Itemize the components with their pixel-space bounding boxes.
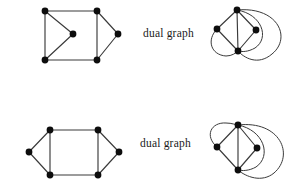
dual-edge-vertical — [237, 10, 238, 51]
vertex-node — [70, 31, 77, 38]
dual-edge-left-bottom — [217, 147, 238, 170]
edge-interior-lower — [45, 34, 73, 60]
vertex-node — [235, 48, 242, 55]
dual-graph-label-bottom: dual graph — [140, 137, 191, 150]
vertex-node — [253, 27, 260, 34]
vertex-node — [95, 127, 102, 134]
dual-graph-label-top: dual graph — [143, 27, 194, 40]
dual-graph-bottom — [210, 122, 283, 179]
dual-edge-top-left — [217, 10, 237, 29]
dual-edge-top-left — [217, 125, 238, 147]
primal-graph-bottom — [26, 127, 123, 179]
vertex-node — [254, 145, 261, 152]
vertex-node — [95, 172, 102, 179]
vertex-node — [47, 172, 54, 179]
dual-graph-figure: dual graph dual graph — [0, 0, 300, 180]
edge-left-upper — [29, 130, 50, 152]
vertex-node — [214, 26, 221, 33]
primal-graph-top — [42, 8, 122, 64]
vertex-node — [116, 149, 123, 156]
dual-edge-left-arc — [211, 29, 238, 56]
dual-edge-right-bottom — [238, 30, 256, 51]
vertex-node — [47, 127, 54, 134]
edge-left-lower — [29, 152, 50, 175]
vertex-node — [235, 167, 242, 174]
vertex-node — [94, 57, 101, 64]
edge-interior-upper — [45, 11, 73, 34]
edge-right-upper — [97, 11, 118, 34]
vertex-node — [214, 144, 221, 151]
edge-right-lower — [97, 34, 118, 60]
edge-right-upper — [98, 130, 119, 152]
dual-edge-left-bottom — [217, 29, 238, 51]
edge-right-lower — [98, 152, 119, 175]
vertex-node — [115, 31, 122, 38]
vertex-node — [94, 8, 101, 15]
dual-edge-right-bottom — [238, 148, 257, 170]
dual-graph-top — [211, 7, 281, 61]
vertex-node — [235, 122, 242, 129]
vertex-node — [234, 7, 241, 14]
dual-edge-left-arc — [210, 123, 238, 147]
vertex-node — [42, 57, 49, 64]
vertex-node — [42, 8, 49, 15]
vertex-node — [26, 149, 33, 156]
